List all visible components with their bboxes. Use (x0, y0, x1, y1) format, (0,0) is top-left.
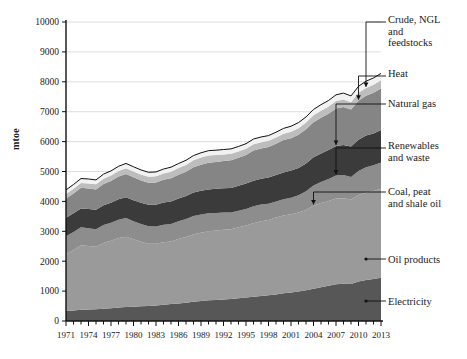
y-tick-label: 6000 (40, 137, 59, 147)
x-tick-label: 1995 (237, 330, 256, 340)
chart-root: mtoe 01000200030004000500060007000800090… (0, 0, 467, 359)
callout-electricity-dot (364, 299, 367, 302)
legend-label-crude-ngl-and-feedstocks: Crude, NGL and feedstocks (388, 14, 441, 49)
legend-label-renewables-and-waste: Renewables and waste (388, 140, 439, 163)
y-tick-label: 10000 (35, 17, 59, 27)
legend-label-electricity: Electricity (388, 296, 432, 308)
x-tick-label: 2013 (372, 330, 391, 340)
y-tick-label: 5000 (40, 167, 59, 177)
y-tick-label: 4000 (40, 197, 59, 207)
legend-label-natural-gas: Natural gas (388, 98, 436, 110)
x-tick-label: 1989 (192, 330, 211, 340)
x-tick-label: 2010 (350, 330, 369, 340)
x-tick-label: 2004 (305, 330, 324, 340)
callout-oil-products-dot (364, 257, 367, 260)
legend-label-heat: Heat (388, 68, 408, 80)
x-tick-label: 2001 (282, 330, 300, 340)
x-tick-label: 1986 (170, 330, 189, 340)
x-tick-label: 1992 (215, 330, 233, 340)
y-tick-label: 0 (54, 316, 59, 326)
y-tick-label: 7000 (40, 107, 59, 117)
y-tick-label: 8000 (40, 77, 59, 87)
y-tick-label: 3000 (40, 227, 59, 237)
x-tick-label: 1983 (147, 330, 166, 340)
y-tick-label: 1000 (40, 286, 59, 296)
legend-label-oil-products: Oil products (388, 254, 440, 266)
x-tick-label: 1974 (80, 330, 99, 340)
x-tick-label: 1998 (260, 330, 279, 340)
x-tick-label: 2007 (327, 330, 346, 340)
x-tick-label: 1977 (102, 330, 121, 340)
legend-label-coal-peat-and-shale-oil: Coal, peat and shale oil (388, 186, 441, 209)
x-tick-label: 1980 (125, 330, 144, 340)
y-tick-label: 9000 (40, 47, 59, 57)
y-tick-label: 2000 (40, 257, 59, 267)
x-tick-label: 1971 (57, 330, 75, 340)
